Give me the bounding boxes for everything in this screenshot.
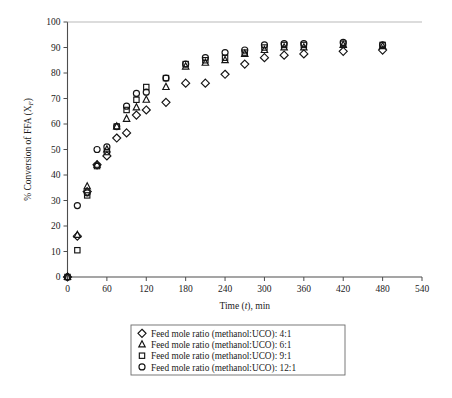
data-point — [241, 60, 249, 68]
chart-figure: 060120180240300360420480540 010203040506… — [0, 0, 452, 398]
legend-label: Feed mole ratio (methanol:UCO): 9:1 — [151, 351, 292, 362]
y-axis-title: % Conversion of FFA (XF) — [23, 98, 34, 201]
x-tick-label: 180 — [179, 284, 194, 294]
chart-legend: Feed mole ratio (methanol:UCO): 4:1Feed … — [131, 325, 345, 375]
series-6-1 — [64, 41, 386, 279]
data-point — [280, 51, 288, 59]
y-tick-label: 50 — [51, 145, 61, 155]
series-12-1 — [64, 39, 385, 280]
data-point — [182, 79, 190, 87]
data-point — [260, 54, 268, 62]
data-point — [74, 203, 80, 209]
legend-label: Feed mole ratio (methanol:UCO): 6:1 — [151, 340, 292, 351]
legend-label: Feed mole ratio (methanol:UCO): 12:1 — [151, 363, 296, 374]
data-point — [162, 98, 170, 106]
legend-label: Feed mole ratio (methanol:UCO): 4:1 — [151, 329, 292, 340]
data-point — [132, 111, 140, 119]
y-tick-label: 20 — [51, 221, 61, 231]
data-point — [339, 47, 347, 55]
legend-item-4-1[interactable]: Feed mole ratio (methanol:UCO): 4:1 — [138, 329, 292, 340]
data-point — [123, 115, 129, 121]
x-tick-label: 540 — [415, 284, 430, 294]
data-point — [74, 231, 80, 237]
x-tick-label: 300 — [257, 284, 272, 294]
x-tick-label: 0 — [65, 284, 70, 294]
y-tick-label: 30 — [51, 196, 61, 206]
data-point — [75, 248, 80, 253]
x-tick-label: 360 — [297, 284, 312, 294]
data-point — [300, 50, 308, 58]
y-tick-label: 90 — [51, 43, 61, 53]
data-point — [123, 129, 131, 137]
x-axis-ticks: 060120180240300360420480540 — [65, 277, 429, 294]
x-axis-title: Time (t), min — [219, 301, 270, 312]
data-point — [94, 146, 100, 152]
y-tick-label: 100 — [46, 17, 61, 27]
data-point — [201, 79, 209, 87]
data-point — [142, 106, 150, 114]
y-tick-label: 0 — [56, 272, 61, 282]
data-point — [143, 96, 149, 102]
data-point — [133, 104, 139, 110]
x-tick-label: 60 — [102, 284, 112, 294]
y-axis-ticks: 0102030405060708090100 — [46, 17, 67, 282]
data-point — [113, 134, 121, 142]
legend-item-6-1[interactable]: Feed mole ratio (methanol:UCO): 6:1 — [139, 340, 292, 351]
data-point — [124, 103, 130, 109]
y-tick-label: 60 — [51, 119, 61, 129]
legend-item-9-1[interactable]: Feed mole ratio (methanol:UCO): 9:1 — [139, 351, 291, 362]
data-markers — [63, 39, 386, 281]
y-tick-label: 80 — [51, 68, 61, 78]
series-4-1 — [63, 46, 386, 281]
x-tick-label: 420 — [336, 284, 351, 294]
data-point — [163, 83, 169, 89]
series-9-1 — [65, 41, 385, 280]
scatter-plot: 060120180240300360420480540 010203040506… — [0, 0, 452, 398]
data-point — [133, 90, 139, 96]
y-tick-label: 40 — [51, 170, 61, 180]
legend-item-12-1[interactable]: Feed mole ratio (methanol:UCO): 12:1 — [139, 363, 296, 374]
y-tick-label: 70 — [51, 94, 61, 104]
data-point — [221, 70, 229, 78]
x-tick-label: 480 — [375, 284, 390, 294]
data-point — [134, 97, 139, 102]
y-tick-label: 10 — [51, 247, 61, 257]
x-tick-label: 240 — [218, 284, 233, 294]
x-tick-label: 120 — [139, 284, 154, 294]
